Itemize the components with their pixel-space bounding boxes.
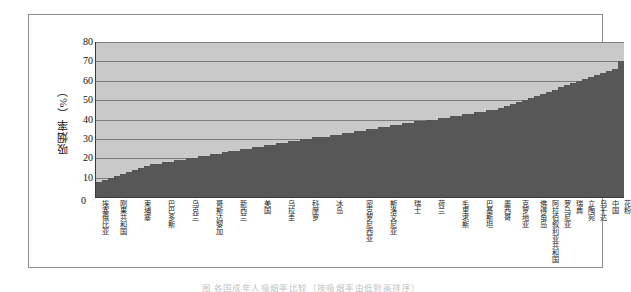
- bar: [132, 170, 138, 197]
- bar: [450, 116, 456, 197]
- bar: [198, 156, 204, 197]
- bar: [186, 158, 192, 197]
- bar: [288, 141, 294, 197]
- bar: [444, 118, 450, 197]
- bar: [114, 176, 120, 197]
- bar: [180, 160, 186, 197]
- bar-series: [96, 42, 624, 197]
- x-axis-label: 花粉: [622, 200, 630, 214]
- x-axis-label: 克罗地亚: [520, 200, 528, 228]
- bar: [144, 166, 150, 197]
- x-axis-label: 巴基斯坦: [484, 200, 492, 228]
- bar: [420, 121, 426, 197]
- bar: [306, 139, 312, 197]
- bar: [510, 104, 516, 197]
- bar: [348, 133, 354, 197]
- bar: [276, 143, 282, 197]
- bar: [480, 112, 486, 197]
- bar: [174, 160, 180, 197]
- bar: [312, 137, 318, 197]
- bar: [504, 106, 510, 197]
- bar: [258, 147, 264, 197]
- bar: [318, 137, 324, 197]
- bar: [474, 112, 480, 197]
- bar: [234, 151, 240, 198]
- y-axis-tick-50: 50: [69, 95, 93, 105]
- bar: [102, 180, 108, 197]
- figure-frame: 吸烟率（%） 1020304050607080 0 埃塞俄比亚刚果共和国柬埔寨巴…: [28, 14, 603, 268]
- x-axis-label: 埃塞俄比亚: [100, 200, 108, 235]
- y-axis-tick-40: 40: [69, 115, 93, 125]
- bar: [168, 162, 174, 197]
- y-axis-tick-10: 10: [69, 173, 93, 183]
- bar: [462, 114, 468, 197]
- x-axis-label: 哥斯达黎加: [214, 200, 222, 235]
- x-axis-label: 瑞典: [574, 200, 582, 214]
- bar: [522, 100, 528, 197]
- bar: [396, 125, 402, 197]
- bar: [252, 147, 258, 197]
- y-axis-tick-30: 30: [69, 134, 93, 144]
- bar: [594, 75, 600, 197]
- x-axis-label: 乌拉圭: [286, 200, 294, 221]
- bar: [162, 162, 168, 197]
- x-axis-label: 佛得角岛: [538, 200, 546, 228]
- bar: [492, 110, 498, 197]
- bar: [438, 118, 444, 197]
- bar: [570, 83, 576, 197]
- x-axis-label: 乌干达: [598, 200, 606, 221]
- bar: [384, 127, 390, 197]
- bar: [534, 96, 540, 197]
- bar: [486, 110, 492, 197]
- bar: [300, 139, 306, 197]
- bar: [354, 131, 360, 197]
- bar: [204, 156, 210, 197]
- y-axis-tick-zero: 0: [81, 195, 86, 206]
- x-axis-label: 瑞士: [412, 200, 420, 214]
- bar: [558, 87, 564, 197]
- bar: [360, 131, 366, 197]
- x-axis-label: 立陶宛: [586, 200, 594, 221]
- x-axis-label: 刚果共和国: [118, 200, 126, 235]
- x-axis-labels: 埃塞俄比亚刚果共和国柬埔寨巴巴多斯乌克兰哥斯达黎加新西兰美国乌拉圭科摩罗冰岛密克…: [95, 200, 623, 278]
- bar: [552, 90, 558, 197]
- bar: [618, 61, 624, 197]
- bar: [408, 123, 414, 197]
- x-axis-label: 冰岛: [334, 200, 342, 214]
- plot-area: [95, 42, 624, 198]
- x-axis-label: 中国: [610, 200, 618, 214]
- bar: [192, 158, 198, 197]
- bar: [588, 77, 594, 197]
- bar: [330, 135, 336, 197]
- bar: [324, 137, 330, 197]
- x-axis-label: 新西兰: [238, 200, 246, 221]
- x-axis-label: 阿拉伯叙利亚共和国: [550, 200, 558, 263]
- bar: [546, 92, 552, 197]
- bar: [126, 172, 132, 197]
- figure-caption: 图 各国成年人吸烟率比较（按吸烟率由低到高排序）: [0, 281, 622, 292]
- x-axis-label: 美国: [262, 200, 270, 214]
- bar: [336, 135, 342, 197]
- bar: [270, 145, 276, 197]
- bar: [156, 164, 162, 197]
- bar: [96, 182, 102, 198]
- y-axis-tick-80: 80: [69, 37, 93, 47]
- bar: [264, 145, 270, 197]
- bar: [216, 154, 222, 197]
- bar: [108, 178, 114, 197]
- bar: [468, 114, 474, 197]
- bar: [516, 102, 522, 197]
- bar: [210, 154, 216, 197]
- x-axis-label: 科摩罗: [310, 200, 318, 221]
- bar: [246, 149, 252, 197]
- bar: [600, 73, 606, 197]
- bar: [426, 120, 432, 198]
- bar: [120, 174, 126, 197]
- bar: [432, 120, 438, 198]
- x-axis-label: 毛里求斯: [460, 200, 468, 228]
- bar: [606, 71, 612, 197]
- bar: [402, 123, 408, 197]
- bar: [540, 94, 546, 197]
- x-axis-label: 荷兰: [436, 200, 444, 214]
- x-axis-label: 乌克兰: [190, 200, 198, 221]
